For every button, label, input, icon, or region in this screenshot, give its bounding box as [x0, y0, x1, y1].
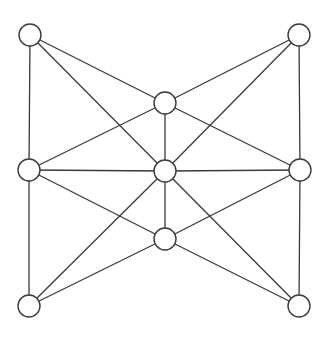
edge-TR-TM: [165, 35, 299, 103]
edge-TR-C: [165, 35, 299, 171]
node-BM: [154, 228, 176, 250]
edge-BL-BM: [29, 239, 165, 306]
node-BR: [288, 295, 310, 317]
edge-C-MR: [165, 170, 300, 171]
edge-TL-TM: [30, 35, 165, 103]
edge-BR-C: [165, 171, 299, 306]
node-TL: [19, 24, 41, 46]
edge-TL-C: [30, 35, 165, 171]
node-TM: [154, 92, 176, 114]
node-BL: [18, 295, 40, 317]
edge-MR-BR: [299, 170, 300, 306]
edge-BM-MR: [165, 170, 300, 239]
edge-TM-MR: [165, 103, 300, 170]
edge-TR-MR: [299, 35, 300, 170]
edge-ML-C: [29, 170, 165, 171]
edge-BR-BM: [165, 239, 299, 306]
node-TR: [288, 24, 310, 46]
node-MR: [289, 159, 311, 181]
node-ML: [18, 159, 40, 181]
node-C: [154, 160, 176, 182]
edge-ML-TM: [29, 103, 165, 170]
edge-ML-BM: [29, 170, 165, 239]
edge-TL-ML: [29, 35, 30, 170]
edge-BL-C: [29, 171, 165, 306]
graph-diagram: [0, 0, 330, 342]
